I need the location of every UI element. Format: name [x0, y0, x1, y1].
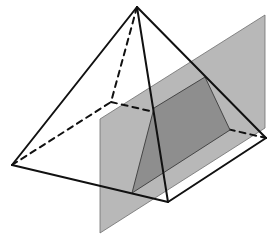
edge-apex-back-hidden: [111, 7, 137, 102]
pyramid-plane-diagram: [0, 0, 275, 242]
edge-left-back-hidden: [12, 102, 111, 165]
